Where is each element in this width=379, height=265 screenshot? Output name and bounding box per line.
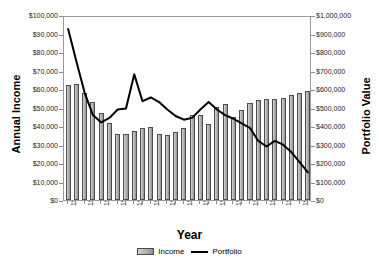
y-axis-right-tick: $900,000 <box>316 31 376 38</box>
y-axis-right-tick: $600,000 <box>316 86 376 93</box>
y-axis-right-tick: $200,000 <box>316 160 376 167</box>
y-axis-right-tick: $500,000 <box>316 105 376 112</box>
legend-bar-swatch-icon <box>137 248 154 255</box>
y-axis-right-tick: $1,000,000 <box>316 12 376 19</box>
y-axis-left-tick: $90,000 <box>0 31 58 38</box>
portfolio-line-series <box>64 17 312 202</box>
y-axis-left-tick: $60,000 <box>0 86 58 93</box>
y-axis-left-tick: $50,000 <box>0 105 58 112</box>
legend-item-portfolio: Portfolio <box>191 247 241 256</box>
y-axis-left-tick: $30,000 <box>0 142 58 149</box>
y-axis-left-tick: $40,000 <box>0 123 58 130</box>
y-axis-right-tick: $100,000 <box>316 179 376 186</box>
y-axis-left-tick: $100,000 <box>0 12 58 19</box>
y-axis-left-tick: $20,000 <box>0 160 58 167</box>
y-axis-right-tick: $700,000 <box>316 68 376 75</box>
y-axis-left-tick: $10,000 <box>0 179 58 186</box>
y-axis-right-tick: $800,000 <box>316 49 376 56</box>
plot-area <box>63 16 311 201</box>
y-axis-left-tick: $80,000 <box>0 49 58 56</box>
chart-container: Annual Income Portfolio Value Year $0$10… <box>0 0 379 265</box>
legend-line-swatch-icon <box>191 251 208 253</box>
y-axis-right-tick: $400,000 <box>316 123 376 130</box>
y-axis-left-tick: $70,000 <box>0 68 58 75</box>
chart-legend: Income Portfolio <box>0 247 379 256</box>
legend-item-income: Income <box>137 247 184 256</box>
y-axis-left-tick: $0 <box>0 197 58 204</box>
y-axis-right-tick: $0 <box>316 197 376 204</box>
y-axis-left-tickmark <box>59 201 63 202</box>
y-axis-right-tick: $300,000 <box>316 142 376 149</box>
legend-label-income: Income <box>158 247 184 256</box>
x-axis-title: Year <box>0 228 379 242</box>
portfolio-line-path <box>68 29 308 172</box>
legend-label-portfolio: Portfolio <box>212 247 241 256</box>
